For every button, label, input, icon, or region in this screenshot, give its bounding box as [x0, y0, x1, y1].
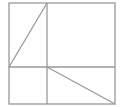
diagonal-top-left	[9, 3, 47, 67]
outer-square	[9, 3, 115, 104]
diagonal-bottom-right	[47, 67, 115, 104]
geometry-diagram	[0, 0, 122, 107]
